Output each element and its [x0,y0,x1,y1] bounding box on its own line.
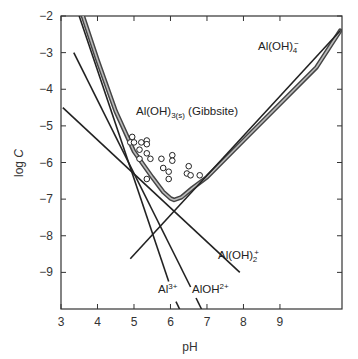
aloh2plus-label: AlOH2+ [192,282,229,295]
data-point-circle [170,152,176,158]
species-line [74,53,191,287]
x-tick-label: 9 [277,315,284,329]
data-point-circle [137,156,143,162]
data-point-circle [160,165,166,171]
data-point-circle [144,151,150,157]
x-tick-label: 3 [58,315,65,329]
data-point-circle [144,176,150,182]
data-points [128,134,203,182]
y-tick-label: −9 [39,265,53,279]
aloh4-label: Al(OH)−4 [258,39,299,55]
x-tick-label: 4 [94,315,101,329]
species-line-dash [196,298,201,309]
data-point-circle [197,173,203,179]
al3-label: Al3+ [158,282,178,295]
data-point-circle [188,173,194,179]
x-tick-label: 7 [204,315,211,329]
x-axis-label: pH [182,340,197,354]
data-point-circle [139,140,145,146]
data-point-circle [131,140,137,146]
data-point-circle [137,147,143,153]
y-tick-label: −2 [39,9,53,23]
x-tick-label: 6 [167,315,174,329]
y-tick-label: −4 [39,82,53,96]
plot-frame [61,16,342,309]
data-point-circle [170,158,176,164]
plot-border [61,16,342,309]
species-line [130,31,340,259]
species-line-dash [176,302,180,309]
species-line [79,16,169,282]
x-tick-label: 5 [131,315,138,329]
data-point-circle [166,176,172,182]
y-tick-label: −7 [39,192,53,206]
aloh2-label: Al(OH)+2 [218,248,259,264]
x-tick-label: 8 [240,315,247,329]
data-point-circle [166,169,172,175]
data-point-circle [148,156,154,162]
data-point-circle [159,156,165,162]
y-tick-label: −3 [39,46,53,60]
axis-ticks: 3456789−2−3−4−5−6−7−8−9 [39,9,342,329]
species-lines [63,16,340,309]
data-point-circle [129,134,135,140]
data-point-circle [144,141,150,147]
solubility-chart: 3456789−2−3−4−5−6−7−8−9 pH log C Al(OH)3… [0,0,358,359]
y-tick-label: −6 [39,156,53,170]
data-point-circle [186,163,192,169]
y-tick-label: −8 [39,229,53,243]
gibbsite-label: Al(OH)3(s) (Gibbsite) [136,105,238,120]
species-line [63,108,240,273]
y-tick-label: −5 [39,119,53,133]
y-axis-label: log C [12,149,26,177]
